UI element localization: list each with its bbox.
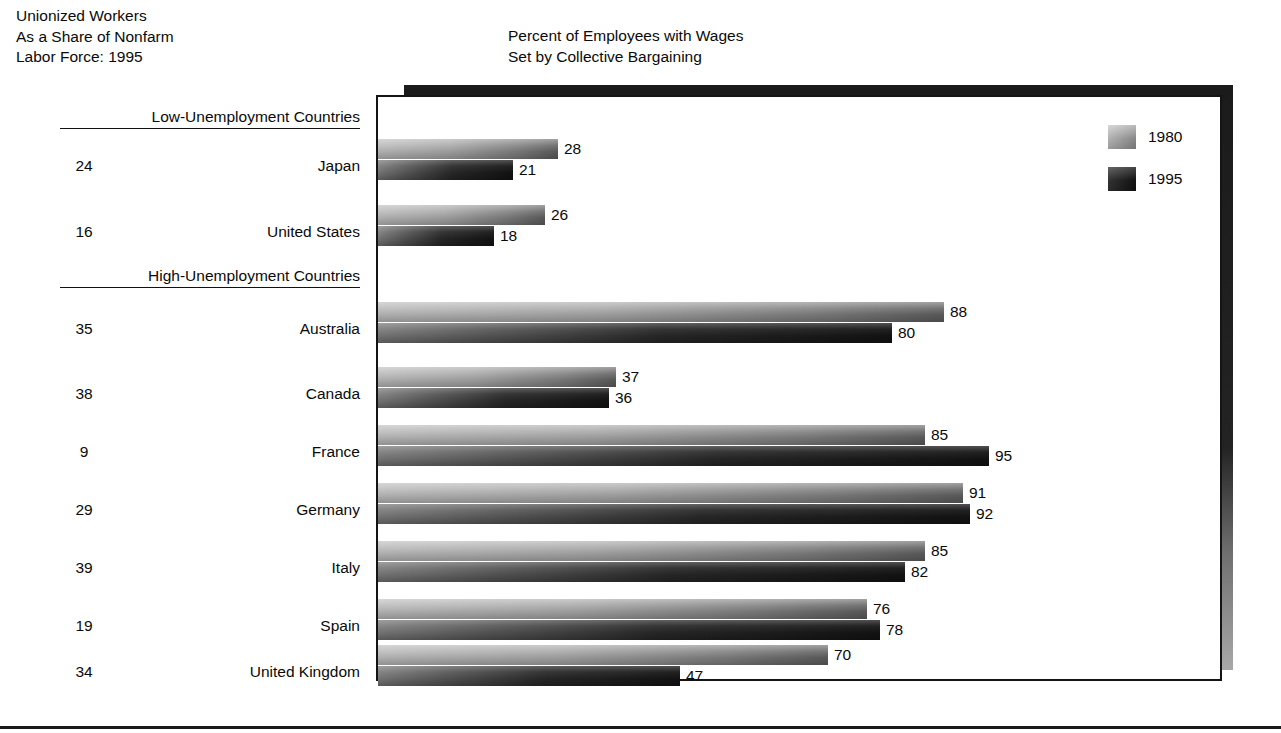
union-share-value: 29 — [58, 501, 110, 519]
chart-title: Percent of Employees with Wages Set by C… — [508, 26, 743, 67]
legend-swatch-icon — [1108, 125, 1136, 149]
union-share-value: 24 — [58, 157, 110, 175]
group-heading: Low-Unemployment Countries — [60, 108, 360, 129]
bar-value-label: 80 — [898, 324, 915, 342]
legend-swatch-icon — [1108, 167, 1136, 191]
bar-value-label: 36 — [615, 389, 632, 407]
bar-1980 — [378, 599, 867, 619]
bar-1980 — [378, 645, 828, 665]
union-share-value: 35 — [58, 320, 110, 338]
bar-1995 — [378, 562, 905, 582]
bar-value-label: 26 — [551, 206, 568, 224]
bar-value-label: 95 — [995, 447, 1012, 465]
bar-value-label: 85 — [931, 426, 948, 444]
bottom-divider — [0, 726, 1281, 729]
bar-1995 — [378, 504, 970, 524]
bar-1995 — [378, 388, 609, 408]
left-header-title: Unionized Workers As a Share of Nonfarm … — [16, 6, 174, 68]
union-share-value: 9 — [58, 443, 110, 461]
country-name: Canada — [150, 385, 360, 403]
bar-value-label: 28 — [564, 140, 581, 158]
legend-item-1980: 1980 — [1108, 122, 1228, 152]
country-name: United Kingdom — [150, 663, 360, 681]
legend-label: 1980 — [1148, 128, 1182, 146]
bar-value-label: 91 — [969, 484, 986, 502]
bar-value-label: 78 — [886, 621, 903, 639]
bar-1980 — [378, 425, 925, 445]
bar-1995 — [378, 666, 680, 686]
bar-1980 — [378, 302, 944, 322]
country-name: United States — [150, 223, 360, 241]
bar-1995 — [378, 226, 494, 246]
union-share-value: 38 — [58, 385, 110, 403]
country-name: Japan — [150, 157, 360, 175]
union-share-value: 16 — [58, 223, 110, 241]
bar-value-label: 47 — [686, 667, 703, 685]
country-name: Italy — [150, 559, 360, 577]
bar-value-label: 37 — [622, 368, 639, 386]
bar-value-label: 88 — [950, 303, 967, 321]
bar-1995 — [378, 160, 513, 180]
legend-label: 1995 — [1148, 170, 1182, 188]
union-share-value: 34 — [58, 663, 110, 681]
bar-1980 — [378, 367, 616, 387]
group-heading: High-Unemployment Countries — [60, 267, 360, 288]
bar-1980 — [378, 139, 558, 159]
country-name: France — [150, 443, 360, 461]
legend: 19801995 — [1108, 122, 1228, 206]
plot-area: 282126188880373685959192858276787047 — [378, 97, 1220, 679]
country-name: Australia — [150, 320, 360, 338]
bar-1980 — [378, 205, 545, 225]
bar-value-label: 85 — [931, 542, 948, 560]
bar-value-label: 21 — [519, 161, 536, 179]
union-share-value: 19 — [58, 617, 110, 635]
bar-value-label: 76 — [873, 600, 890, 618]
bar-value-label: 82 — [911, 563, 928, 581]
bar-1980 — [378, 541, 925, 561]
bar-1995 — [378, 446, 989, 466]
bar-1995 — [378, 620, 880, 640]
union-share-value: 39 — [58, 559, 110, 577]
bar-value-label: 92 — [976, 505, 993, 523]
bar-1980 — [378, 483, 963, 503]
bar-value-label: 70 — [834, 646, 851, 664]
bar-1995 — [378, 323, 892, 343]
bar-value-label: 18 — [500, 227, 517, 245]
country-name: Germany — [150, 501, 360, 519]
country-name: Spain — [150, 617, 360, 635]
legend-item-1995: 1995 — [1108, 164, 1228, 194]
